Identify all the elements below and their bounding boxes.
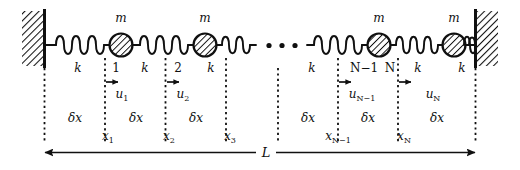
position-label-2: x2	[163, 129, 175, 145]
spring-label-3: k	[308, 61, 315, 75]
displacement-label-1: u1	[116, 87, 129, 103]
mass-2	[194, 34, 217, 57]
total-length-label: L	[261, 145, 271, 160]
displacement-symbol-1: u	[116, 87, 124, 101]
position-sub-1: 1	[109, 136, 114, 145]
spring-label-5: k	[458, 61, 465, 75]
displacement-label-2: u2	[177, 87, 190, 103]
displacement-sub-2: 2	[184, 94, 189, 103]
svg-text:xN−1: xN−1	[325, 129, 351, 145]
mass-label-n-1: m	[373, 11, 384, 25]
spring-4	[391, 37, 444, 54]
cell-label-0: δx	[68, 111, 82, 125]
svg-text:u2: u2	[177, 87, 190, 103]
mass-label-2: m	[199, 11, 210, 25]
mass-index-n-1: N−1	[350, 61, 378, 75]
position-label-n: xN	[397, 129, 411, 145]
displacement-label-n-1: uN−1	[349, 87, 376, 103]
cell-label-4: δx	[361, 111, 375, 125]
diagram-canvas: m m m m k k k k k k 1 2 N−1 N u1 u2 uN−1…	[0, 0, 520, 170]
svg-text:x3: x3	[224, 129, 236, 145]
spring-label-2: k	[207, 61, 214, 75]
svg-text:u1: u1	[116, 87, 129, 103]
spring-3	[307, 36, 368, 54]
mass-1	[110, 34, 133, 57]
position-label-n-1: xN−1	[325, 129, 351, 145]
svg-text:uN−1: uN−1	[349, 87, 376, 103]
cell-label-3: δx	[301, 111, 315, 125]
displacement-sub-n-1: N−1	[356, 94, 375, 103]
position-sub-n-1: N−1	[332, 136, 351, 145]
spring-mass-chain	[44, 34, 476, 57]
mass-label-1: m	[115, 11, 126, 25]
spring-label-1: k	[141, 61, 148, 75]
spring-2	[217, 37, 257, 54]
cell-label-2: δx	[189, 111, 203, 125]
cell-boundary-lines	[45, 58, 476, 143]
spring-label-0: k	[74, 61, 81, 75]
spring-1	[133, 36, 195, 54]
mass-index-n: N	[385, 61, 396, 75]
cell-label-5: δx	[430, 111, 444, 125]
mass-label-n: m	[448, 11, 459, 25]
chain-ellipsis	[266, 43, 297, 48]
position-sub-3: 3	[231, 136, 236, 145]
svg-text:xN: xN	[397, 129, 411, 145]
position-label-1: x1	[102, 129, 114, 145]
position-label-3: x3	[224, 129, 236, 145]
mass-n	[443, 34, 466, 57]
svg-text:x2: x2	[163, 129, 175, 145]
mass-index-1: 1	[112, 61, 120, 75]
spring-0	[44, 36, 110, 54]
spring-label-4: k	[414, 61, 421, 75]
mass-index-2: 2	[174, 61, 182, 75]
displacement-sub-n: N	[433, 94, 440, 103]
cell-label-1: δx	[129, 111, 143, 125]
displacement-symbol-2: u	[177, 87, 185, 101]
mass-spring-chain-figure: m m m m k k k k k k 1 2 N−1 N u1 u2 uN−1…	[0, 0, 520, 170]
fixed-wall-right	[476, 9, 499, 68]
displacement-label-n: uN	[426, 87, 441, 103]
position-sub-2: 2	[170, 136, 175, 145]
displacement-symbol-n-1: u	[349, 87, 357, 101]
position-sub-n: N	[404, 136, 411, 145]
svg-text:x1: x1	[102, 129, 114, 145]
mass-n-1	[368, 34, 391, 57]
displacement-sub-1: 1	[123, 94, 128, 103]
fixed-wall-left	[22, 9, 45, 68]
svg-text:uN: uN	[426, 87, 441, 103]
displacement-symbol-n: u	[426, 87, 434, 101]
